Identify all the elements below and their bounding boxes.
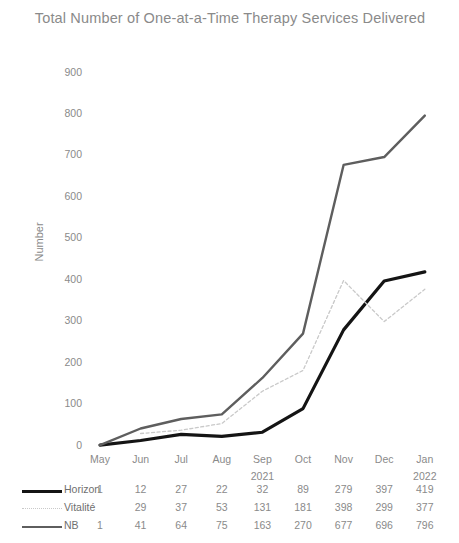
data-cell: 181 [281, 501, 325, 513]
data-cell: 89 [281, 483, 325, 495]
data-cell: 29 [119, 501, 163, 513]
data-cell: 419 [403, 483, 447, 495]
series-line-nb [100, 116, 425, 445]
data-cell: 12 [119, 483, 163, 495]
data-cell: 696 [362, 519, 406, 531]
data-cell: 398 [322, 501, 366, 513]
data-cell: 22 [200, 483, 244, 495]
data-cell: 270 [281, 519, 325, 531]
data-cell: 299 [362, 501, 406, 513]
data-cell: 131 [240, 501, 284, 513]
data-cell: 377 [403, 501, 447, 513]
data-cell: 75 [200, 519, 244, 531]
data-cell: 1 [78, 483, 122, 495]
data-cell: 53 [200, 501, 244, 513]
data-cell: 677 [322, 519, 366, 531]
legend-swatch-horizon [22, 490, 62, 493]
data-cell: 64 [159, 519, 203, 531]
series-line-horizon [100, 272, 425, 445]
legend-data-table: Horizon11227223289279397419Vitalité29375… [0, 482, 459, 536]
data-cell: 1 [78, 519, 122, 531]
data-cell: 796 [403, 519, 447, 531]
legend-table-row: Horizon11227223289279397419 [0, 482, 459, 500]
legend-table-row: Vitalité293753131181398299377 [0, 500, 459, 518]
legend-swatch-nb [22, 526, 62, 528]
data-cell: 41 [119, 519, 163, 531]
chart-container: Total Number of One-at-a-Time Therapy Se… [0, 0, 459, 543]
data-cell: 37 [159, 501, 203, 513]
plot-area [0, 0, 459, 543]
data-cell: 32 [240, 483, 284, 495]
data-cell: 27 [159, 483, 203, 495]
legend-table-row: NB1416475163270677696796 [0, 518, 459, 536]
legend-swatch-vitalité [22, 508, 62, 509]
data-cell: 397 [362, 483, 406, 495]
legend-series-name: Vitalité [64, 501, 95, 513]
data-cell: 279 [322, 483, 366, 495]
legend-series-name: NB [64, 519, 79, 531]
data-cell: 163 [240, 519, 284, 531]
